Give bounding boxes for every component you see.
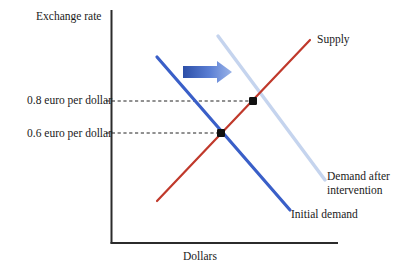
equilibrium-marker-after xyxy=(249,97,257,105)
x-axis-label: Dollars xyxy=(183,250,217,263)
y-tick-label-low: 0.6 euro per dollar xyxy=(27,127,112,140)
exchange-rate-supply-demand-chart: Exchange rate Dollars 0.8 euro per dolla… xyxy=(0,0,406,275)
equilibrium-marker-initial xyxy=(217,129,225,137)
shift-arrow-icon xyxy=(183,61,232,83)
demand-after-intervention-label: Demand after intervention xyxy=(327,169,403,197)
supply-curve-label: Supply xyxy=(317,33,350,46)
supply-curve xyxy=(157,40,310,201)
demand-after-intervention-curve xyxy=(218,36,325,180)
y-axis-label: Exchange rate xyxy=(36,10,101,23)
initial-demand-curve-label: Initial demand xyxy=(291,208,358,221)
y-tick-label-high: 0.8 euro per dollar xyxy=(27,94,112,107)
